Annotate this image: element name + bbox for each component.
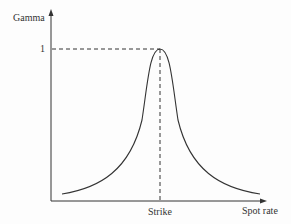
x-axis-label: Spot rate: [242, 205, 278, 216]
gamma-chart: Gamma 1 Strike Spot rate: [0, 0, 291, 224]
y-tick-label: 1: [40, 43, 45, 54]
gamma-curve: [62, 49, 260, 194]
x-axis-arrow-icon: [260, 199, 267, 204]
y-axis-label: Gamma: [13, 12, 45, 23]
chart-plot: [0, 0, 291, 224]
x-tick-label: Strike: [148, 206, 172, 217]
y-axis-arrow-icon: [49, 9, 54, 16]
